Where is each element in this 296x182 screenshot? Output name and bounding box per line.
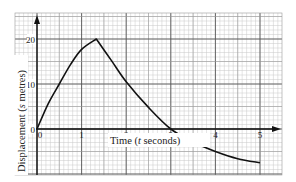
x-tick-label: 4 (213, 130, 218, 140)
y-tick-label: 0 (31, 125, 36, 135)
displacement-time-chart: 01234501020 Time (t seconds) Displacemen… (0, 0, 296, 182)
x-tick-label: 1 (79, 130, 84, 140)
x-tick-label: 5 (258, 130, 263, 140)
x-axis-label: Time (t seconds) (110, 135, 181, 147)
y-axis-label: Displacement (s metres) (16, 69, 28, 172)
y-tick-label: 20 (26, 35, 36, 45)
x-tick-label: 0 (38, 130, 43, 140)
